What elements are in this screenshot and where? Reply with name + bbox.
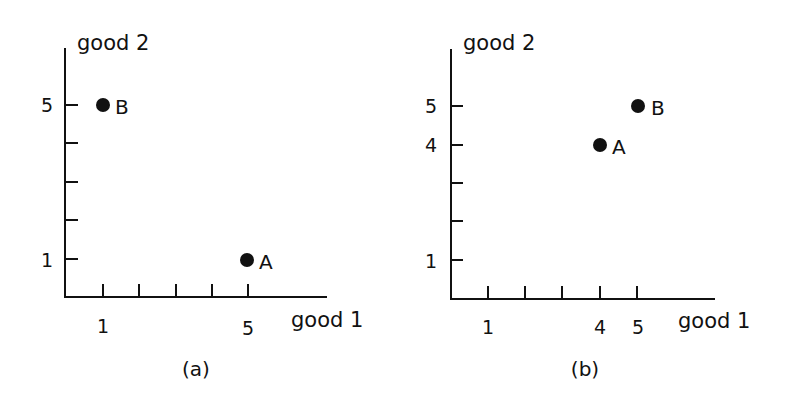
x-axis-label: good 1 <box>678 309 750 333</box>
y-tick-label: 4 <box>425 134 437 156</box>
y-tick-label: 1 <box>41 249 53 271</box>
point-label-a: A <box>259 250 273 274</box>
y-tick-label: 1 <box>425 250 437 272</box>
x-ticks <box>488 286 637 299</box>
x-tick-label: 4 <box>594 316 606 338</box>
point-a <box>593 138 607 152</box>
panel-caption: (a) <box>182 357 210 381</box>
figure: 5 1 1 5 good 2 good 1 B A (a) <box>0 0 785 407</box>
panel-b: 5 4 1 1 4 5 good 2 good 1 B A (b) <box>425 31 750 381</box>
y-axis-label: good 2 <box>77 31 149 55</box>
x-tick-label: 5 <box>632 316 644 338</box>
x-tick-label: 5 <box>242 317 254 339</box>
panel-a: 5 1 1 5 good 2 good 1 B A (a) <box>41 31 363 381</box>
y-tick-label: 5 <box>425 95 437 117</box>
point-label-b: B <box>651 96 665 120</box>
x-tick-label: 1 <box>482 316 494 338</box>
panel-caption: (b) <box>571 357 599 381</box>
y-ticks <box>65 105 78 259</box>
x-ticks <box>103 284 248 297</box>
y-axis-label: good 2 <box>463 31 535 55</box>
y-ticks <box>451 106 463 260</box>
x-tick-label: 1 <box>97 315 109 337</box>
point-label-a: A <box>612 135 626 159</box>
y-tick-label: 5 <box>41 94 53 116</box>
point-b <box>96 98 110 112</box>
x-axis-label: good 1 <box>291 308 363 332</box>
point-label-b: B <box>115 95 129 119</box>
point-a <box>240 253 254 267</box>
point-b <box>631 99 645 113</box>
